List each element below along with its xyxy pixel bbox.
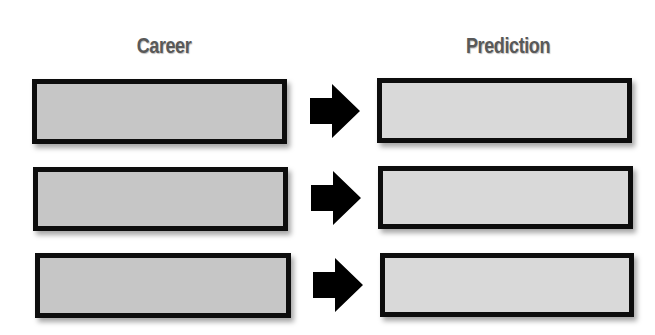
career-box-3 <box>35 253 291 318</box>
right-arrow-icon <box>313 258 365 312</box>
prediction-column-header: Prediction <box>451 33 566 59</box>
career-column-header: Career <box>107 33 222 59</box>
prediction-box-1 <box>377 78 632 143</box>
right-arrow-icon <box>310 84 362 138</box>
career-box-2 <box>33 167 288 231</box>
prediction-box-2 <box>378 166 633 229</box>
career-box-1 <box>32 79 287 144</box>
right-arrow-icon <box>311 171 363 225</box>
prediction-box-3 <box>380 253 634 317</box>
